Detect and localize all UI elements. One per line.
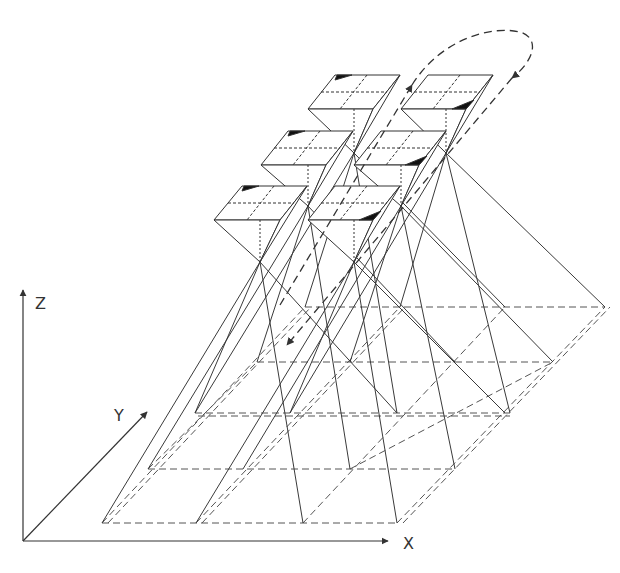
projection-diagram (0, 0, 620, 573)
y-axis-label: Y (114, 406, 124, 425)
ground-grid (102, 307, 610, 523)
x-axis-label: X (403, 534, 414, 553)
z-axis-label: Z (35, 294, 46, 313)
y-axis (23, 412, 147, 541)
